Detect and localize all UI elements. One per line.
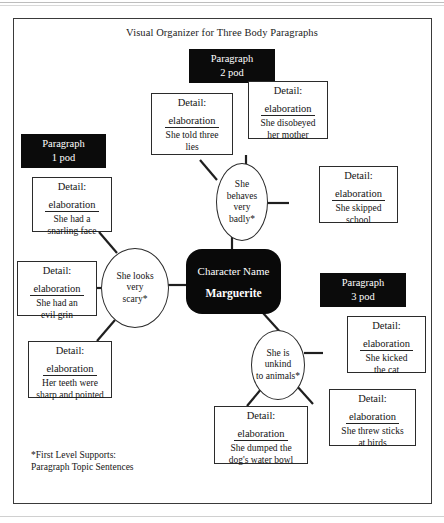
- detail-box-three-lies: Detail: elaboration She told three lies: [151, 93, 233, 155]
- support-ellipse-behaves-badly: She behaves very badly*: [216, 163, 268, 241]
- detail-head: Detail:: [155, 97, 229, 110]
- center-character-node: Character Name Marguerite: [186, 249, 281, 314]
- detail-sub: elaboration: [346, 411, 399, 425]
- scan-edge-line: [0, 516, 444, 517]
- detail-head: Detail:: [333, 393, 412, 406]
- detail-sub: elaboration: [30, 283, 83, 297]
- pod-label-paragraph-1: Paragraph 1 pod: [21, 134, 106, 168]
- center-node-character-name: Marguerite: [205, 286, 261, 300]
- detail-body: She dumped the dog's water bowl: [218, 443, 304, 466]
- detail-sub: elaboration: [43, 363, 96, 377]
- detail-body: She had an evil grin: [21, 298, 93, 321]
- detail-sub: elaboration: [261, 103, 314, 117]
- scan-edge-line: [0, 2, 444, 3]
- detail-sub: elaboration: [45, 199, 98, 213]
- detail-head: Detail:: [351, 320, 422, 333]
- footnote-legend: *First Level Supports: Paragraph Topic S…: [31, 449, 134, 473]
- detail-box-disobeyed-mother: Detail: elaboration She disobeyed her mo…: [248, 81, 328, 139]
- center-node-label: Character Name: [198, 264, 270, 278]
- detail-body: She threw sticks at birds: [333, 426, 412, 449]
- detail-box-kicked-cat: Detail: elaboration She kicked the cat: [347, 316, 426, 373]
- detail-sub: elaboration: [234, 428, 287, 442]
- pod-label-paragraph-3: Paragraph 3 pod: [320, 273, 406, 307]
- detail-box-skipped-school: Detail: elaboration She skipped school: [319, 166, 398, 223]
- detail-head: Detail:: [252, 85, 324, 98]
- scan-edge-line: [0, 5, 444, 6]
- detail-box-snarling-face: Detail: elaboration She had a snarling f…: [32, 177, 112, 232]
- detail-head: Detail:: [218, 410, 304, 423]
- visual-organizer-page: Visual Organizer for Three Body Paragrap…: [0, 0, 444, 523]
- detail-body: Her teeth were sharp and pointed: [32, 378, 108, 401]
- detail-box-sharp-teeth: Detail: elaboration Her teeth were sharp…: [28, 341, 112, 398]
- detail-box-dogs-water-bowl: Detail: elaboration She dumped the dog's…: [214, 406, 308, 464]
- detail-body: She disobeyed her mother: [252, 118, 324, 141]
- detail-head: Detail:: [323, 170, 394, 183]
- support-ellipse-unkind-animals: She is unkind to animals*: [251, 330, 305, 400]
- detail-sub: elaboration: [332, 188, 385, 202]
- detail-box-evil-grin: Detail: elaboration She had an evil grin: [17, 261, 97, 316]
- detail-head: Detail:: [21, 265, 93, 278]
- detail-sub: elaboration: [360, 338, 413, 352]
- detail-head: Detail:: [32, 345, 108, 358]
- detail-body: She skipped school: [323, 203, 394, 226]
- detail-sub: elaboration: [165, 115, 218, 129]
- support-ellipse-looks-scary: She looks very scary*: [101, 248, 169, 328]
- detail-head: Detail:: [36, 181, 108, 194]
- detail-body: She had a snarling face: [36, 214, 108, 237]
- pod-label-paragraph-2: Paragraph 2 pod: [189, 49, 275, 83]
- page-title: Visual Organizer for Three Body Paragrap…: [0, 27, 444, 38]
- detail-body: She told three lies: [155, 130, 229, 153]
- detail-box-threw-sticks: Detail: elaboration She threw sticks at …: [329, 389, 416, 446]
- detail-body: She kicked the cat: [351, 353, 422, 376]
